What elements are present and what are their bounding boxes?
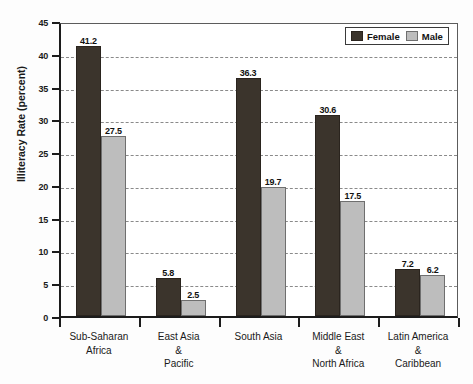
x-category-label-line: & [131, 344, 227, 358]
y-tick-label-10: 10 [20, 247, 48, 257]
y-tick-label-35: 35 [20, 84, 48, 94]
y-tick-label-5: 5 [20, 280, 48, 290]
y-tick-label-40: 40 [20, 51, 48, 61]
x-category-label-line: Pacific [131, 357, 227, 371]
y-tick-label-45: 45 [20, 18, 48, 28]
bar-value-label-male-1: 2.5 [175, 290, 212, 300]
bar-value-label-female-2: 36.3 [230, 68, 267, 78]
bar-female-0 [76, 46, 101, 316]
x-tick-mark-1 [139, 318, 141, 327]
plot-area: 41.25.836.330.67.227.52.519.717.56.2 [59, 23, 458, 318]
bar-male-0 [101, 136, 126, 316]
y-tick-label-20: 20 [20, 182, 48, 192]
y-tick-label-30: 30 [20, 116, 48, 126]
x-category-label-line: Latin America [370, 330, 466, 344]
legend-label-male: Male [422, 31, 443, 42]
y-tick-label-15: 15 [20, 215, 48, 225]
x-tick-mark-0 [59, 318, 61, 327]
y-tick-label-25: 25 [20, 149, 48, 159]
y-tick-label-0: 0 [20, 313, 48, 323]
x-category-label-4: Latin America&Caribbean [370, 330, 466, 371]
bar-male-2 [261, 187, 286, 316]
chart-legend: FemaleMale [345, 27, 449, 45]
chart-page: Illiteracy Rate (percent) 05101520253035… [0, 0, 473, 384]
bar-value-label-female-3: 30.6 [309, 105, 346, 115]
female-swatch [351, 31, 363, 41]
x-tick-mark-2 [219, 318, 221, 327]
bar-male-1 [181, 300, 206, 316]
bar-female-3 [315, 115, 340, 316]
bar-male-3 [340, 201, 365, 316]
bar-female-2 [236, 78, 261, 316]
legend-item-male: Male [406, 31, 443, 42]
bar-value-label-male-3: 17.5 [334, 191, 371, 201]
x-tick-mark-5 [458, 318, 460, 327]
bar-female-4 [395, 269, 420, 316]
x-tick-mark-3 [298, 318, 300, 327]
legend-item-female: Female [351, 31, 400, 42]
x-category-label-line: Caribbean [370, 357, 466, 371]
gridline-40 [61, 57, 457, 58]
male-swatch [406, 31, 418, 41]
legend-label-female: Female [367, 31, 400, 42]
x-tick-mark-4 [378, 318, 380, 327]
x-category-label-line: & [370, 344, 466, 358]
bar-value-label-male-0: 27.5 [95, 126, 132, 136]
bar-value-label-female-1: 5.8 [150, 268, 187, 278]
bar-value-label-male-4: 6.2 [414, 265, 451, 275]
bar-value-label-male-2: 19.7 [255, 177, 292, 187]
bar-male-4 [420, 275, 445, 316]
bar-value-label-female-0: 41.2 [70, 36, 107, 46]
